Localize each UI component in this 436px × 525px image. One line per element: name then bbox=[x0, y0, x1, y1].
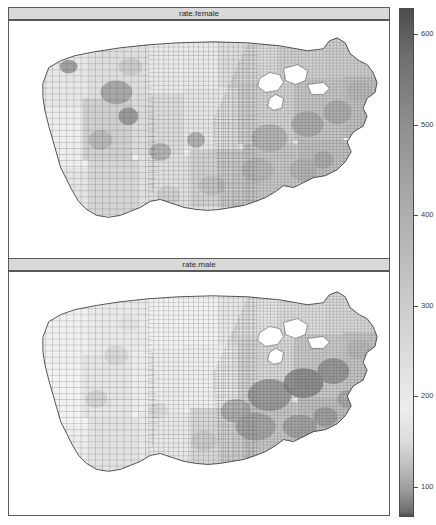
figure-title-sliver bbox=[0, 0, 436, 5]
tick-mark bbox=[414, 396, 418, 397]
colorbar-tick-500: 500 bbox=[414, 125, 436, 126]
panel-rate-male[interactable] bbox=[8, 271, 390, 516]
tick-label: 500 bbox=[421, 120, 434, 129]
tick-mark bbox=[414, 487, 418, 488]
colorbar-tick-100: 100 bbox=[414, 487, 436, 488]
colorbar-gradient bbox=[399, 8, 414, 517]
us-county-map-male[interactable] bbox=[9, 272, 389, 515]
panel-rate-female[interactable] bbox=[8, 20, 390, 259]
strip-label-rate-male: rate.male bbox=[8, 258, 390, 271]
colorbar-tick-400: 400 bbox=[414, 215, 436, 216]
us-county-map-female[interactable] bbox=[9, 21, 389, 258]
tick-mark bbox=[414, 125, 418, 126]
tick-mark bbox=[414, 215, 418, 216]
trellis-choropleth-figure: rate.female bbox=[0, 0, 436, 525]
map-svg-male bbox=[9, 272, 389, 515]
strip-label-text: rate.female bbox=[179, 9, 219, 18]
colorbar-tick-300: 300 bbox=[414, 306, 436, 307]
rate-colorbar[interactable]: 600 500 400 300 200 100 bbox=[399, 8, 436, 517]
tick-mark bbox=[414, 306, 418, 307]
tick-label: 300 bbox=[421, 301, 434, 310]
map-svg-female bbox=[9, 21, 389, 258]
county-mesh-mid-male bbox=[148, 272, 257, 515]
colorbar-tick-600: 600 bbox=[414, 34, 436, 35]
tick-mark bbox=[414, 34, 418, 35]
strip-label-text: rate.male bbox=[182, 260, 215, 269]
colorbar-tick-200: 200 bbox=[414, 396, 436, 397]
tick-label: 100 bbox=[421, 482, 434, 491]
tick-label: 400 bbox=[421, 210, 434, 219]
tick-label: 200 bbox=[421, 391, 434, 400]
county-mesh-mid-female bbox=[148, 21, 257, 258]
strip-label-rate-female: rate.female bbox=[8, 7, 390, 20]
tick-label: 600 bbox=[421, 29, 434, 38]
